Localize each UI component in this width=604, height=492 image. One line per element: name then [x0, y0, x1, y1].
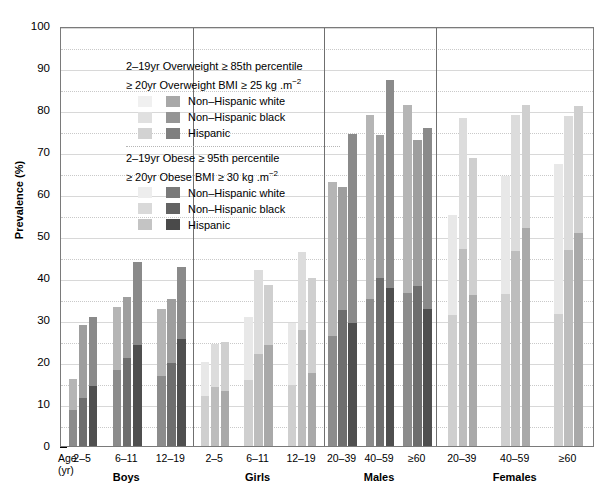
x-tick-label: 20–39	[432, 452, 492, 464]
bar	[564, 116, 573, 446]
legend-item: Non–Hispanic white	[126, 94, 354, 109]
bar	[157, 309, 166, 446]
legend-swatch-light	[138, 203, 152, 214]
legend-item-label: Non–Hispanic white	[188, 95, 285, 107]
gridline	[61, 49, 593, 50]
legend-block2-items: Non–Hispanic whiteNon–Hispanic blackHisp…	[126, 185, 354, 232]
y-tick-label: 0	[16, 441, 50, 453]
bar	[288, 323, 297, 446]
chart-figure: Prevalence (%) 0102030405060708090100 2–…	[0, 0, 604, 492]
y-tick-label: 10	[16, 399, 50, 411]
bar-segment-obese	[386, 288, 395, 446]
legend-block2-line1: 2–19yr Obese ≥ 95th percentile	[126, 151, 354, 166]
legend-swatch-light	[138, 187, 152, 198]
bar	[501, 176, 510, 446]
legend-swatch-light	[138, 112, 152, 123]
bar-segment-obese	[177, 339, 186, 446]
bar-segment-obese	[366, 299, 375, 446]
bar	[469, 158, 478, 446]
bar	[366, 115, 375, 446]
legend-block1-items: Non–Hispanic whiteNon–Hispanic blackHisp…	[126, 94, 354, 141]
bar	[511, 115, 520, 446]
legend-swatch-dark	[166, 219, 180, 230]
legend-swatch-light	[138, 128, 152, 139]
bar-segment-obese	[413, 286, 422, 446]
bar	[423, 128, 432, 446]
bar-segment-obese	[69, 410, 78, 446]
legend-swatch-dark	[166, 112, 180, 123]
bar	[574, 106, 583, 446]
bar	[167, 299, 176, 446]
legend-item-label: Hispanic	[188, 127, 230, 139]
bar-segment-obese	[167, 363, 176, 446]
legend-item-label: Hispanic	[188, 219, 230, 231]
bar-segment-obese	[79, 398, 88, 446]
legend-swatch-dark	[166, 128, 180, 139]
bar	[403, 105, 412, 446]
bar-segment-obese	[574, 233, 583, 446]
bar	[298, 252, 307, 446]
chart-legend: 2–19yr Overweight ≥ 85th percentile ≥ 20…	[126, 59, 354, 232]
group-label: Girls	[208, 471, 308, 483]
gridline	[61, 28, 593, 29]
bar-segment-obese	[157, 376, 166, 446]
bar-segment-obese	[348, 323, 357, 446]
legend-item: Hispanic	[126, 217, 354, 232]
legend-block2-line2: ≥ 20yr Obese BMI ≥ 30 kg .m−2	[126, 166, 354, 185]
bar-segment-obese	[288, 385, 297, 446]
bar	[211, 344, 220, 446]
age-caption-line: Age	[58, 452, 77, 464]
bar-segment-obese	[211, 387, 220, 446]
bar-segment-obese	[123, 358, 132, 446]
bar-segment-obese	[298, 330, 307, 446]
bar	[221, 342, 230, 446]
bar	[264, 285, 273, 446]
y-tick-label: 70	[16, 147, 50, 159]
bar	[79, 325, 88, 446]
bar-segment-obese	[376, 278, 385, 446]
y-tick-label: 100	[16, 21, 50, 33]
bar	[201, 362, 210, 446]
y-tick-label: 50	[16, 231, 50, 243]
legend-item: Non–Hispanic black	[126, 110, 354, 125]
group-separator	[436, 28, 437, 446]
bar-segment-obese	[501, 294, 510, 446]
legend-item: Non–Hispanic white	[126, 185, 354, 200]
bar	[386, 80, 395, 446]
legend-item-label: Non–Hispanic black	[188, 203, 285, 215]
legend-item-label: Non–Hispanic black	[188, 111, 285, 123]
bar-segment-obese	[403, 293, 412, 446]
group-label: Males	[329, 471, 429, 483]
bar	[123, 297, 132, 446]
group-label: Females	[465, 471, 565, 483]
y-tick-label: 20	[16, 357, 50, 369]
bar	[89, 317, 98, 446]
legend-divider	[126, 146, 340, 147]
group-label: Boys	[76, 471, 176, 483]
legend-swatch-dark	[166, 187, 180, 198]
bar-segment-obese	[89, 386, 98, 446]
bar	[459, 118, 468, 446]
bar-segment-obese	[423, 309, 432, 446]
legend-swatch-dark	[166, 96, 180, 107]
bar-segment-obese	[459, 249, 468, 446]
y-tick-label: 40	[16, 273, 50, 285]
legend-block1-line1: 2–19yr Overweight ≥ 85th percentile	[126, 59, 354, 74]
bar-segment-obese	[308, 373, 317, 447]
legend-item: Hispanic	[126, 126, 354, 141]
bar	[554, 164, 563, 446]
bar	[413, 140, 422, 446]
bar-segment-obese	[133, 345, 142, 446]
age-caption-line: (yr)	[58, 464, 77, 476]
legend-swatch-light	[138, 219, 152, 230]
bar	[254, 270, 263, 446]
legend-item-label: Non–Hispanic white	[188, 187, 285, 199]
bar	[522, 105, 531, 446]
legend-item: Non–Hispanic black	[126, 201, 354, 216]
bar-segment-obese	[264, 345, 273, 446]
bar	[244, 317, 253, 446]
x-tick-label: ≥60	[538, 452, 598, 464]
bar-segment-obese	[113, 370, 122, 446]
legend-swatch-light	[138, 96, 152, 107]
bar-segment-obese	[221, 391, 230, 446]
